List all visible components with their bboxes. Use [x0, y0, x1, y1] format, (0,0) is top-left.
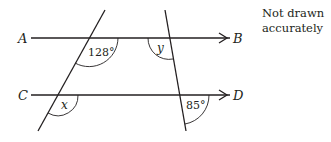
angle-label-85: 85°	[186, 99, 206, 112]
transversal-left	[38, 10, 105, 131]
not-drawn-accurately-note: Not drawn accurately	[262, 6, 324, 36]
angle-label-128: 128°	[88, 46, 115, 59]
note-line-2: accurately	[262, 21, 324, 36]
angle-label-y: y	[156, 41, 164, 55]
label-c: C	[18, 88, 28, 103]
label-d: D	[232, 88, 244, 103]
angle-label-x: x	[61, 98, 68, 112]
label-a: A	[17, 31, 27, 46]
label-b: B	[232, 31, 243, 46]
transversal-right	[165, 10, 186, 131]
note-line-1: Not drawn	[262, 6, 324, 21]
